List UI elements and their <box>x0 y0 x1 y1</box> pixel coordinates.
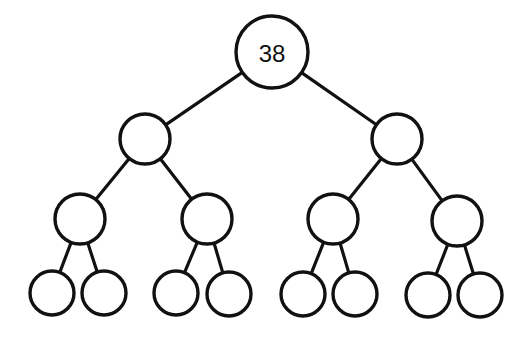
tree-edge <box>96 158 129 199</box>
tree-edge <box>436 244 448 274</box>
tree-edge <box>88 243 98 272</box>
tree-edge <box>349 159 382 200</box>
node-circle <box>154 271 198 315</box>
tree-edges <box>60 72 474 274</box>
tree-edge <box>60 242 71 272</box>
node-circle <box>30 271 74 315</box>
tree-node <box>372 114 422 164</box>
node-circle <box>182 194 232 244</box>
node-circle <box>432 196 482 246</box>
tree-node <box>406 273 450 317</box>
tree-node <box>30 271 74 315</box>
node-circle <box>458 273 502 317</box>
tree-edge <box>412 159 442 201</box>
tree-edge <box>464 245 473 274</box>
node-circle <box>308 194 358 244</box>
tree-node <box>281 272 325 316</box>
binary-tree-diagram: 38 <box>0 0 525 345</box>
tree-nodes: 38 <box>30 16 502 317</box>
node-circle <box>207 272 251 316</box>
node-circle <box>372 114 422 164</box>
node-circle <box>82 271 126 315</box>
tree-node <box>154 271 198 315</box>
tree-node <box>308 194 358 244</box>
tree-edge <box>302 73 377 125</box>
tree-node <box>182 194 232 244</box>
tree-edge <box>185 242 198 273</box>
node-circle <box>406 273 450 317</box>
tree-edge <box>214 243 223 273</box>
node-circle <box>281 272 325 316</box>
tree-edge <box>166 72 243 125</box>
node-circle <box>55 194 105 244</box>
tree-node <box>333 272 377 316</box>
tree-edge <box>340 243 349 273</box>
tree-edge <box>311 242 324 273</box>
tree-node <box>82 271 126 315</box>
tree-root-node: 38 <box>236 16 308 88</box>
tree-node <box>120 114 170 164</box>
node-circle <box>120 114 170 164</box>
node-circle <box>333 272 377 316</box>
tree-node <box>55 194 105 244</box>
tree-edge <box>160 159 191 199</box>
tree-node <box>207 272 251 316</box>
tree-node <box>432 196 482 246</box>
tree-node <box>458 273 502 317</box>
node-label: 38 <box>259 40 286 67</box>
